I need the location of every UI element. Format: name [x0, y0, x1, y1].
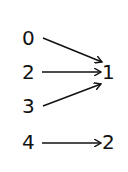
arrow-0-to-1 — [43, 38, 102, 62]
arrows-layer — [0, 0, 128, 172]
arrow-3-to-1 — [43, 84, 101, 106]
